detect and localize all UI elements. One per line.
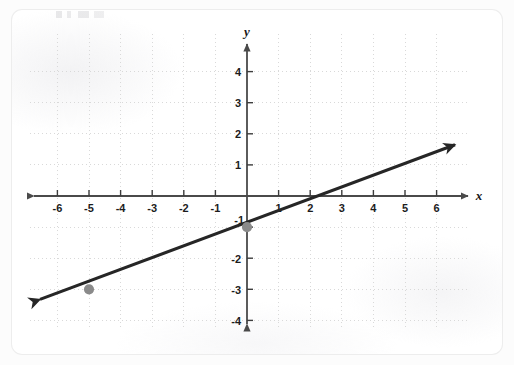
screenshot-root: -6 -5 -4 -3 -2 -1 1 2 3 4 5 6 4 3 2 1 -1… [0, 0, 514, 365]
x-tick-label: -1 [211, 202, 221, 214]
grid-lines [30, 34, 470, 330]
y-tick-label: -4 [231, 315, 242, 327]
plotted-point [242, 222, 252, 232]
y-tick-label: 3 [235, 97, 241, 109]
y-tick-label: -2 [231, 253, 241, 265]
y-tick-label: -3 [231, 284, 241, 296]
y-tick-label: 4 [235, 66, 242, 78]
x-tick-label: 5 [402, 202, 408, 214]
axes [34, 44, 468, 324]
x-tick-label: 2 [307, 202, 313, 214]
x-tick-label: 4 [370, 202, 377, 214]
x-tick-labels: -6 -5 -4 -3 -2 -1 1 2 3 4 5 6 [53, 202, 440, 214]
x-tick-label: -2 [179, 202, 189, 214]
x-tick-label: 6 [434, 202, 440, 214]
graph-stage: -6 -5 -4 -3 -2 -1 1 2 3 4 5 6 4 3 2 1 -1… [0, 0, 514, 365]
plotted-point [84, 284, 94, 294]
x-tick-label: -6 [53, 202, 63, 214]
x-tick-label: -5 [84, 202, 94, 214]
y-tick-label: 2 [235, 128, 241, 140]
coordinate-plane-svg: -6 -5 -4 -3 -2 -1 1 2 3 4 5 6 4 3 2 1 -1… [0, 0, 514, 365]
x-tick-label: -3 [147, 202, 157, 214]
x-tick-label: -4 [116, 202, 127, 214]
y-axis-label: y [242, 24, 250, 39]
x-tick-label: 3 [339, 202, 345, 214]
y-tick-label: 1 [235, 159, 241, 171]
x-axis-label: x [475, 188, 483, 203]
